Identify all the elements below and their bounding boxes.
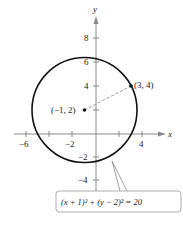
circle-graph: x −6 −2 4 y 8 6 4 −2 −4 (−1, 2) (3, 4) (… xyxy=(0,0,183,231)
edge-point-label: (3, 4) xyxy=(134,80,154,90)
x-tick-label: −6 xyxy=(19,139,29,149)
y-tick-label: −4 xyxy=(78,175,88,185)
x-axis-label: x xyxy=(167,129,172,139)
y-tick-label: 6 xyxy=(84,57,89,67)
y-axis: y 8 6 4 −2 −4 xyxy=(78,4,99,192)
y-tick-label: −2 xyxy=(78,152,88,162)
radius-line xyxy=(85,86,132,110)
center-point xyxy=(83,108,87,112)
y-tick-label: 4 xyxy=(84,81,89,91)
x-tick-label: 4 xyxy=(139,139,144,149)
edge-point xyxy=(129,84,133,88)
x-tick-label: −2 xyxy=(65,139,75,149)
equation-label: (x + 1)² + (y − 2)² = 20 xyxy=(61,197,143,207)
callout-line xyxy=(112,161,127,191)
y-axis-label: y xyxy=(92,4,97,14)
y-tick-label: 8 xyxy=(84,33,89,43)
center-point-label: (−1, 2) xyxy=(51,105,76,115)
callout-line xyxy=(112,161,120,191)
